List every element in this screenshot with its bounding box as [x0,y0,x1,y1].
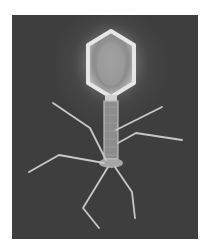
phage-head [88,31,134,97]
phage-image [12,15,198,239]
phage-collar [105,95,117,101]
